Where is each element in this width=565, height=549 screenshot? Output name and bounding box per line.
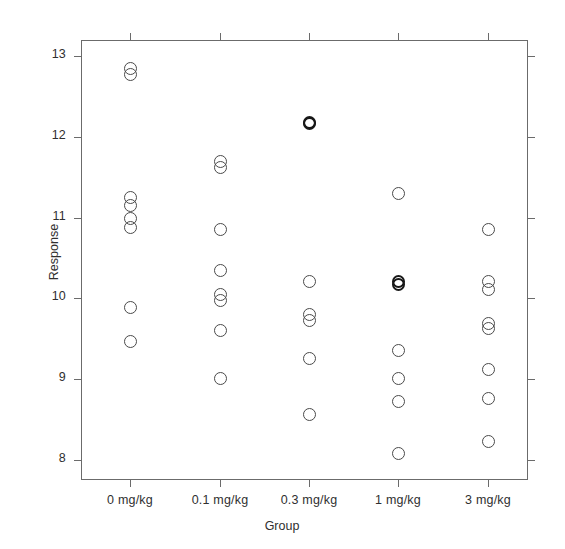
data-point-marker: [482, 363, 495, 376]
data-point-marker: [392, 447, 405, 460]
y-tick-mark-right: [528, 218, 535, 219]
data-point-marker: [392, 187, 405, 200]
y-tick-label: 9: [32, 370, 66, 384]
x-tick-mark-top: [130, 33, 131, 40]
data-point-marker: [214, 223, 227, 236]
data-point-marker: [482, 435, 495, 448]
x-tick-mark: [309, 480, 310, 487]
y-tick-label: 12: [32, 128, 66, 142]
data-point-marker: [124, 221, 137, 234]
y-tick-label: 8: [32, 451, 66, 465]
data-point-marker: [482, 322, 495, 335]
y-tick-label: 13: [32, 47, 66, 61]
data-point-marker: [482, 392, 495, 405]
data-point-marker: [124, 68, 137, 81]
y-tick-mark-right: [528, 137, 535, 138]
data-point-marker: [124, 335, 137, 348]
data-point-marker: [214, 372, 227, 385]
data-point-marker: [303, 408, 316, 421]
data-point-marker: [303, 352, 316, 365]
data-point-marker: [303, 275, 316, 288]
data-point-marker: [214, 161, 227, 174]
x-tick-mark: [488, 480, 489, 487]
x-tick-mark-top: [398, 33, 399, 40]
y-tick-mark-right: [528, 379, 535, 380]
data-point-marker: [124, 301, 137, 314]
y-tick-mark: [74, 379, 81, 380]
x-tick-label: 3 mg/kg: [428, 493, 548, 507]
x-tick-mark: [220, 480, 221, 487]
y-axis-title: Response: [47, 192, 61, 312]
y-tick-mark: [74, 56, 81, 57]
data-point-marker: [214, 264, 227, 277]
y-tick-mark-right: [528, 56, 535, 57]
x-tick-mark-top: [220, 33, 221, 40]
x-tick-mark-top: [309, 33, 310, 40]
x-axis-title: Group: [222, 519, 342, 533]
data-point-marker: [392, 278, 405, 291]
y-tick-mark: [74, 460, 81, 461]
data-point-marker: [303, 314, 316, 327]
x-tick-mark: [398, 480, 399, 487]
y-tick-mark: [74, 298, 81, 299]
data-point-marker: [124, 199, 137, 212]
data-point-marker: [214, 294, 227, 307]
y-tick-mark: [74, 137, 81, 138]
y-tick-mark-right: [528, 298, 535, 299]
y-tick-mark-right: [528, 460, 535, 461]
data-point-marker: [392, 372, 405, 385]
chart-canvas: 89101112130 mg/kg0.1 mg/kg0.3 mg/kg1 mg/…: [0, 0, 565, 549]
data-point-marker: [392, 344, 405, 357]
data-point-marker: [392, 395, 405, 408]
data-point-marker: [482, 283, 495, 296]
x-tick-mark-top: [488, 33, 489, 40]
x-tick-mark: [130, 480, 131, 487]
y-tick-mark: [74, 218, 81, 219]
data-point-marker: [214, 324, 227, 337]
data-point-marker: [303, 117, 316, 130]
data-point-marker: [482, 223, 495, 236]
